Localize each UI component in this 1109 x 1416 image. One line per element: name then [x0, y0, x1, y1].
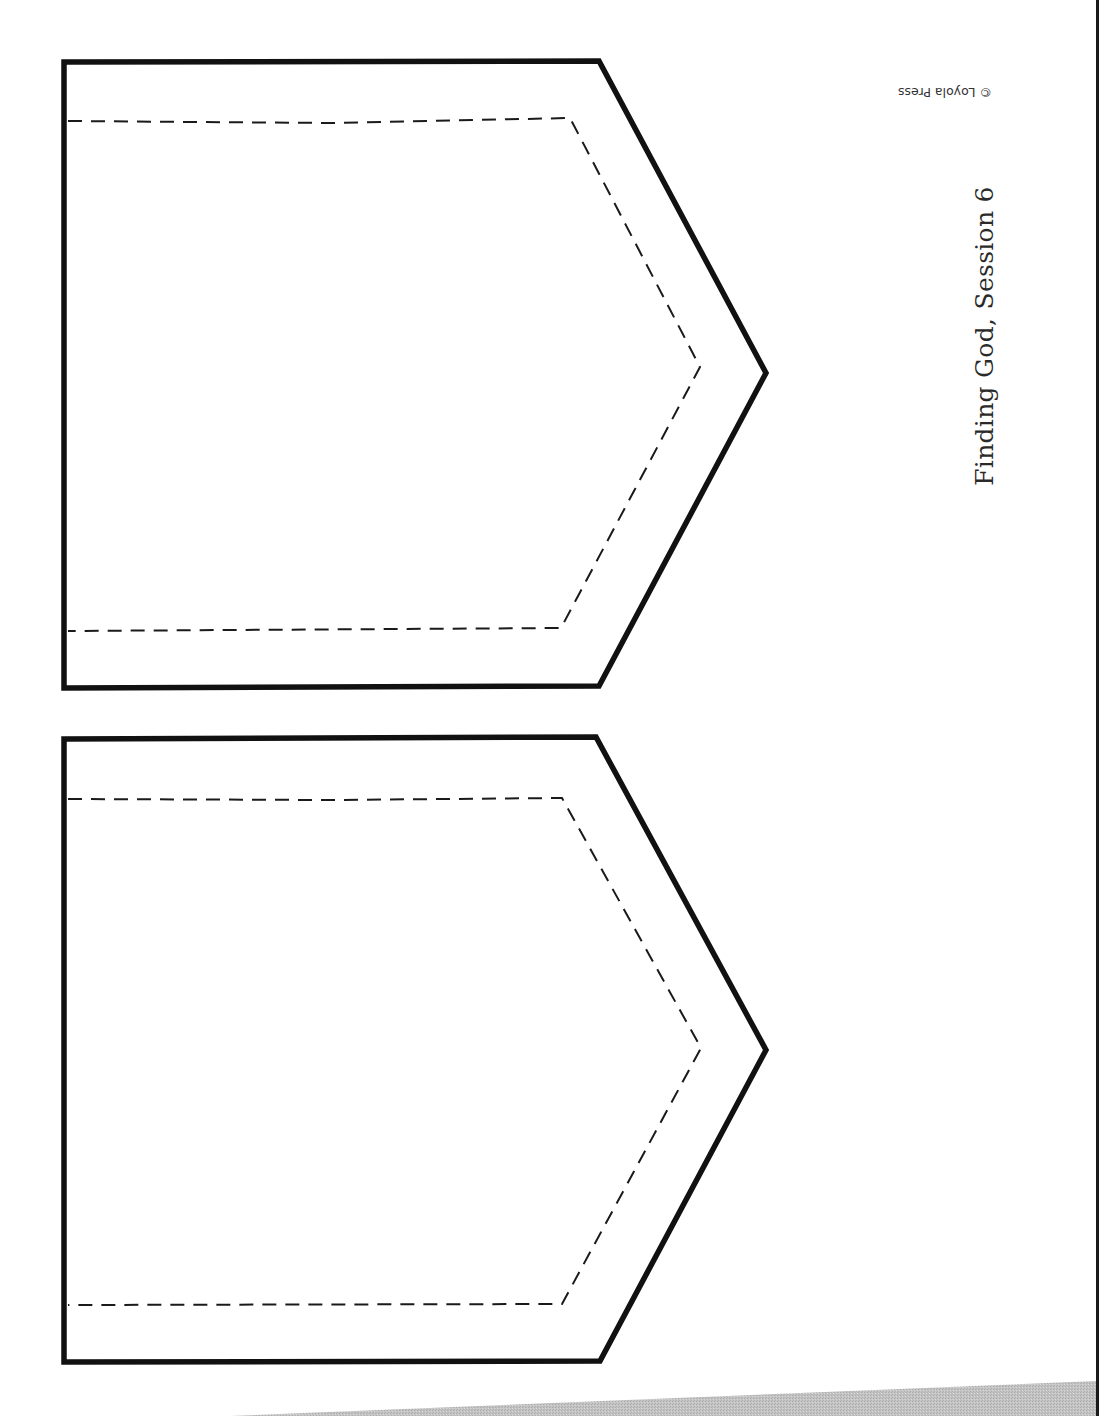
page-shadow — [230, 1381, 1096, 1416]
pennant-upper — [64, 61, 766, 688]
copyright-notice: © Loyola Press — [898, 85, 992, 100]
worksheet-title: Finding God, Session 6 — [970, 186, 999, 486]
pennant-template-art — [0, 0, 1109, 1416]
pennant-upper-cut-line — [68, 118, 700, 631]
pennant-lower — [64, 737, 766, 1362]
page-edge-line — [1096, 0, 1099, 1416]
pennant-lower-cut-line — [68, 798, 701, 1305]
worksheet-page: Finding God, Session 6 © Loyola Press — [0, 0, 1109, 1416]
pennant-upper-outline — [64, 61, 766, 688]
pennant-lower-outline — [64, 737, 766, 1362]
